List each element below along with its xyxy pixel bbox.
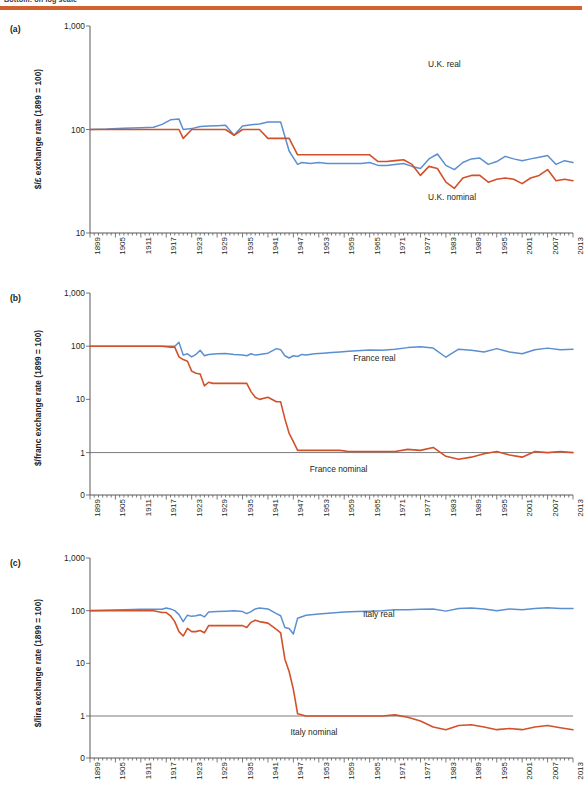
x-tick-label: 1929: [220, 237, 229, 255]
series-line-italy-real: [90, 608, 573, 634]
x-tick-label: 2001: [525, 762, 534, 780]
x-tick-label: 1971: [398, 499, 407, 517]
x-tick-label: 1923: [195, 499, 204, 517]
header-rule: [0, 6, 582, 10]
y-tick-label: 1,000: [64, 21, 85, 31]
x-tick-label: 2013: [576, 237, 585, 255]
x-tick-label: 1989: [474, 237, 483, 255]
series-label-real: U.K. real: [428, 59, 461, 69]
plot-area-b: 1,00010010101899190519111917192319291935…: [90, 293, 573, 495]
x-tick-label: 2013: [576, 499, 585, 517]
panel-tag-a: (a): [10, 24, 21, 34]
x-tick-label: 1941: [271, 237, 280, 255]
x-tick-label: 1917: [169, 499, 178, 517]
x-tick-label: 2013: [576, 762, 585, 780]
x-tick-label: 1953: [322, 762, 331, 780]
x-tick-label: 1947: [296, 499, 305, 517]
header-strip: Bottom: on log scale: [0, 0, 582, 11]
y-tick-label: 1,000: [64, 553, 85, 563]
y-tick-label: 1: [80, 711, 85, 721]
series-label-nominal: France nominal: [310, 464, 368, 474]
x-tick-label: 1917: [169, 237, 178, 255]
x-tick-label: 1935: [246, 499, 255, 517]
x-tick-label: 1959: [347, 762, 356, 780]
x-tick-label: 1983: [449, 499, 458, 517]
x-tick-label: 1905: [118, 499, 127, 517]
x-tick-label: 1977: [423, 237, 432, 255]
x-tick-label: 1953: [322, 499, 331, 517]
x-tick-label: 1977: [423, 499, 432, 517]
x-tick-label: 2001: [525, 499, 534, 517]
x-tick-label: 1941: [271, 762, 280, 780]
x-tick-label: 1947: [296, 237, 305, 255]
x-tick-label: 1971: [398, 237, 407, 255]
x-tick-label: 1989: [474, 499, 483, 517]
plot-area-a: 1,00010010189919051911191719231929193519…: [90, 26, 573, 233]
series-line-italy-nominal: [90, 611, 573, 730]
y-axis-label-c: $/lira exchange rate (1899 = 100): [33, 563, 43, 763]
y-tick-label: 10: [76, 658, 85, 668]
x-tick-label: 1965: [373, 237, 382, 255]
chart-svg-a: [90, 26, 573, 233]
series-line-france-real: [90, 342, 573, 358]
series-line-france-nominal: [90, 346, 573, 459]
y-tick-label: 100: [71, 606, 85, 616]
x-tick-label: 1929: [220, 499, 229, 517]
x-tick-label: 1995: [500, 499, 509, 517]
x-tick-label: 1983: [449, 762, 458, 780]
x-tick-label: 2007: [551, 499, 560, 517]
x-tick-label: 1917: [169, 762, 178, 780]
y-axis-label-a: $/£ exchange rate (1899 = 100): [33, 29, 43, 229]
series-label-real: France real: [353, 353, 395, 363]
panel-tag-b: (b): [10, 293, 21, 303]
y-tick-label: 1,000: [64, 288, 85, 298]
x-tick-label: 1983: [449, 237, 458, 255]
x-tick-label: 2007: [551, 237, 560, 255]
x-tick-label: 1941: [271, 499, 280, 517]
x-tick-label: 1899: [93, 237, 102, 255]
y-tick-label: 100: [71, 341, 85, 351]
y-tick-label: 100: [71, 125, 85, 135]
x-tick-label: 1905: [118, 237, 127, 255]
x-tick-label: 1995: [500, 762, 509, 780]
x-tick-label: 1929: [220, 762, 229, 780]
x-tick-label: 1923: [195, 237, 204, 255]
x-tick-label: 1959: [347, 237, 356, 255]
x-tick-label: 1899: [93, 762, 102, 780]
x-tick-label: 1905: [118, 762, 127, 780]
y-tick-label: 10: [76, 394, 85, 404]
x-tick-label: 1911: [144, 499, 153, 516]
x-tick-label: 1995: [500, 237, 509, 255]
x-tick-label: 1899: [93, 499, 102, 517]
y-tick-label: 0: [80, 753, 85, 763]
series-label-real: Italy real: [363, 609, 395, 619]
x-tick-label: 1971: [398, 762, 407, 780]
x-tick-label: 2001: [525, 237, 534, 255]
x-tick-label: 1923: [195, 762, 204, 780]
chart-panel-c: (c) $/lira exchange rate (1899 = 100) 1,…: [0, 548, 582, 803]
x-tick-label: 1911: [144, 762, 153, 779]
x-tick-label: 1935: [246, 762, 255, 780]
series-line-u-k-real: [90, 119, 573, 169]
chart-panel-b: (b) $/franc exchange rate (1899 = 100) 1…: [0, 283, 582, 548]
x-tick-label: 1965: [373, 762, 382, 780]
x-tick-label: 1911: [144, 237, 153, 254]
y-tick-label: 10: [76, 228, 85, 238]
x-tick-label: 1947: [296, 762, 305, 780]
panel-tag-c: (c): [10, 558, 21, 568]
x-tick-label: 2007: [551, 762, 560, 780]
series-label-nominal: U.K. nominal: [428, 192, 476, 202]
y-axis-label-b: $/franc exchange rate (1899 = 100): [33, 298, 43, 498]
plot-area-c: 1,00010010101899190519111917192319291935…: [90, 558, 573, 758]
x-tick-label: 1959: [347, 499, 356, 517]
y-tick-label: 1: [80, 448, 85, 458]
chart-panel-a: (a) $/£ exchange rate (1899 = 100) 1,000…: [0, 14, 582, 282]
x-tick-label: 1935: [246, 237, 255, 255]
x-tick-label: 1953: [322, 237, 331, 255]
series-label-nominal: Italy nominal: [290, 727, 337, 737]
x-tick-label: 1965: [373, 499, 382, 517]
x-tick-label: 1989: [474, 762, 483, 780]
y-tick-label: 0: [80, 490, 85, 500]
header-caption: Bottom: on log scale: [4, 0, 77, 4]
x-tick-label: 1977: [423, 762, 432, 780]
